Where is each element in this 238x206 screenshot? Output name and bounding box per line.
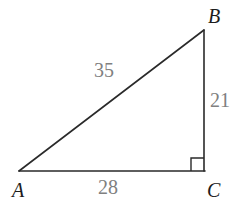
vertex-label-c: C bbox=[207, 180, 220, 200]
vertex-label-a: A bbox=[12, 180, 24, 200]
side-length-label-bc: 21 bbox=[210, 90, 230, 110]
right-angle-marker-icon bbox=[191, 158, 204, 171]
geometry-diagram: B A C 35 21 28 bbox=[0, 0, 238, 206]
side-length-label-ab: 35 bbox=[94, 60, 114, 80]
vertex-label-b: B bbox=[208, 6, 220, 26]
segment-AB bbox=[19, 30, 204, 171]
triangle-figure bbox=[0, 0, 238, 206]
side-length-label-ac: 28 bbox=[98, 177, 118, 197]
